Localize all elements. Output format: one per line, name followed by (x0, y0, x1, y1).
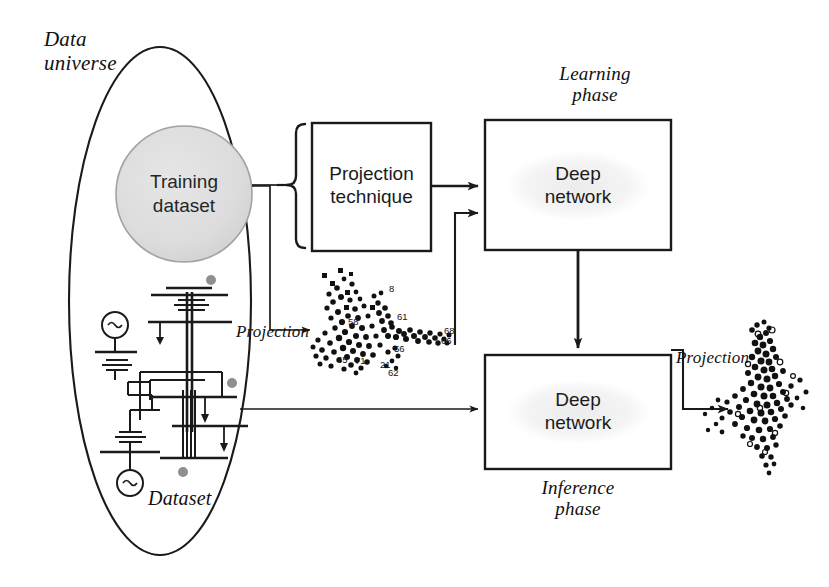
svg-text:66: 66 (441, 335, 452, 346)
inference-phase-label: Inference phase (513, 477, 643, 520)
diagram-vector-layer: 8 61 68 56 65 71 21 62 58 66 (0, 0, 829, 587)
data-universe-oval (69, 47, 251, 555)
figure-canvas: 8 61 68 56 65 71 21 62 58 66 (0, 0, 829, 587)
projection-right-label: Projection (676, 348, 749, 367)
projection-technique-label: Projection technique (312, 162, 431, 208)
svg-text:65: 65 (337, 354, 348, 365)
deep-network-inference-label: Deep network (485, 388, 671, 434)
svg-text:56: 56 (394, 343, 405, 354)
learning-phase-label: Learning phase (530, 63, 660, 106)
svg-text:58: 58 (348, 316, 359, 327)
training-dataset-label: Training dataset (124, 170, 244, 217)
svg-text:62: 62 (388, 367, 399, 378)
projection-left-label: Projection (236, 322, 309, 341)
edge-scatter-to-deep-network (455, 213, 478, 345)
projection-scatter-inference (703, 320, 809, 476)
svg-text:71: 71 (355, 355, 366, 366)
svg-text:8: 8 (389, 283, 394, 294)
input-brace (277, 124, 305, 248)
power-system-schematic (95, 275, 248, 496)
svg-text:61: 61 (397, 311, 408, 322)
dataset-label: Dataset (148, 487, 212, 509)
deep-network-learning-label: Deep network (485, 162, 671, 208)
projection-scatter-training: 8 61 68 56 65 71 21 62 58 66 (311, 268, 455, 378)
edge-training-to-projection (252, 186, 310, 330)
data-universe-label: Data universe (44, 28, 117, 75)
